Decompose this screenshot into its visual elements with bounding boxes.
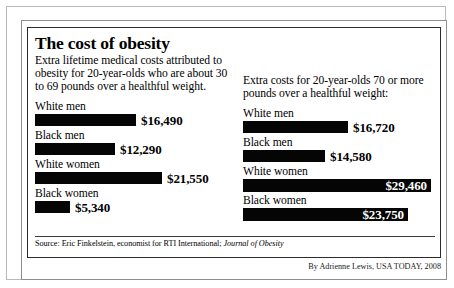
credit-line: By Adrienne Lewis, USA TODAY, 2008 bbox=[27, 262, 441, 272]
bar-fill bbox=[243, 150, 325, 162]
bar-fill: $29,460 bbox=[243, 179, 431, 192]
bar-group-white-men-right: White men $16,720 bbox=[243, 107, 439, 134]
bar-value: $16,720 bbox=[353, 121, 395, 134]
bar-label: White men bbox=[35, 100, 231, 114]
bar-fill bbox=[35, 143, 115, 155]
left-column: Extra lifetime medical costs attributed … bbox=[35, 55, 231, 216]
bar-row: $12,290 bbox=[35, 143, 231, 156]
bar-group-black-women-left: Black women $5,340 bbox=[35, 187, 231, 214]
bar-group-black-men-right: Black men $14,580 bbox=[243, 136, 439, 163]
right-column-bars: White men $16,720 Black men $14,580 bbox=[243, 107, 439, 221]
bar-group-white-women-left: White women $21,550 bbox=[35, 158, 231, 185]
bar-group-white-men-left: White men $16,490 bbox=[35, 100, 231, 127]
bar-value: $12,290 bbox=[120, 143, 162, 156]
bar-row: $16,490 bbox=[35, 114, 231, 127]
bar-fill bbox=[35, 114, 136, 126]
outer-frame: The cost of obesity Extra lifetime medic… bbox=[6, 6, 446, 280]
bar-group-black-women-right: Black women $23,750 bbox=[243, 194, 439, 221]
bar-label: Black women bbox=[243, 194, 439, 208]
bar-label: Black women bbox=[35, 187, 231, 201]
right-column: Extra costs for 20-year-olds 70 or more … bbox=[243, 55, 439, 223]
bar-fill bbox=[35, 172, 162, 184]
bar-label: White women bbox=[35, 158, 231, 172]
bar-row: $21,550 bbox=[35, 172, 231, 185]
bar-value: $29,460 bbox=[385, 179, 427, 192]
source-note: Source: Eric Finkelstein, economist for … bbox=[35, 239, 435, 249]
bar-row: $29,460 bbox=[243, 179, 439, 192]
footer-divider bbox=[35, 236, 435, 237]
bar-fill bbox=[35, 201, 70, 213]
bar-row: $23,750 bbox=[243, 208, 439, 221]
bar-fill bbox=[243, 121, 348, 133]
left-column-bars: White men $16,490 Black men $12,290 bbox=[35, 100, 231, 214]
bar-label: Black men bbox=[243, 136, 439, 150]
bar-group-black-men-left: Black men $12,290 bbox=[35, 129, 231, 156]
bar-fill: $23,750 bbox=[243, 208, 408, 221]
left-column-deck: Extra lifetime medical costs attributed … bbox=[35, 55, 231, 94]
bar-value: $14,580 bbox=[330, 150, 372, 163]
bar-label: Black men bbox=[35, 129, 231, 143]
page-title: The cost of obesity bbox=[35, 33, 435, 53]
bar-label: White men bbox=[243, 107, 439, 121]
infographic-content: The cost of obesity Extra lifetime medic… bbox=[35, 33, 435, 252]
bar-row: $14,580 bbox=[243, 150, 439, 163]
bar-value: $5,340 bbox=[75, 201, 110, 214]
bar-value: $21,550 bbox=[167, 172, 209, 185]
bar-row: $16,720 bbox=[243, 121, 439, 134]
bar-value: $23,750 bbox=[362, 208, 404, 221]
source-prefix: Source: Eric Finkelstein, economist for … bbox=[35, 239, 223, 248]
source-journal: Journal of Obesity bbox=[223, 239, 283, 248]
bar-value: $16,490 bbox=[141, 114, 183, 127]
bar-group-white-women-right: White women $29,460 bbox=[243, 165, 439, 192]
right-column-deck: Extra costs for 20-year-olds 70 or more … bbox=[243, 55, 439, 101]
bar-label: White women bbox=[243, 165, 439, 179]
bar-row: $5,340 bbox=[35, 201, 231, 214]
